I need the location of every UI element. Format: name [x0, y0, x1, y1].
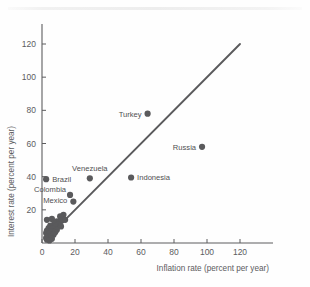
point-label-colombia: Colombia — [34, 185, 67, 194]
data-point — [87, 175, 93, 181]
y-axis-tick-label: 120 — [22, 39, 36, 49]
data-point — [46, 237, 52, 243]
point-labels-layer: TurkeyRussiaVenezuelaIndonesiaBrazilColo… — [34, 110, 197, 205]
reference-line-layer — [52, 44, 240, 233]
forty-five-degree-reference-line — [52, 44, 240, 233]
point-label-indonesia: Indonesia — [137, 173, 171, 182]
data-point — [43, 176, 49, 182]
x-axis-tick-label: 40 — [103, 247, 113, 257]
data-point — [128, 174, 134, 180]
point-label-mexico: Mexico — [43, 196, 67, 205]
point-label-brazil: Brazil — [52, 175, 71, 184]
point-label-venezuela: Venezuela — [72, 164, 108, 173]
point-label-turkey: Turkey — [119, 110, 142, 119]
point-label-russia: Russia — [173, 143, 197, 152]
data-point — [62, 217, 68, 223]
x-axis-tick-label: 20 — [70, 247, 80, 257]
y-axis-tick-label: 100 — [22, 72, 36, 82]
x-axis-tick-label: 120 — [233, 247, 247, 257]
y-axis-tick-label: 40 — [27, 172, 37, 182]
x-axis-tick-label: 80 — [169, 247, 179, 257]
y-axis-title: Interest rate (percent per year) — [7, 126, 16, 237]
x-axis-title: Inflation rate (percent per year) — [157, 264, 270, 273]
y-axis-tick-label: 80 — [27, 105, 37, 115]
data-point — [199, 144, 205, 150]
x-axis-tick-label: 60 — [136, 247, 146, 257]
data-point — [67, 192, 73, 198]
chart-figure: 20406080100120020406080100120 TurkeyRuss… — [0, 0, 310, 287]
data-point — [145, 111, 151, 117]
x-axis-tick-label: 100 — [200, 247, 214, 257]
data-point — [70, 198, 76, 204]
y-axis-tick-label: 60 — [27, 139, 37, 149]
y-axis-tick-label: 20 — [27, 205, 37, 215]
scatter-plot: 20406080100120020406080100120 TurkeyRuss… — [0, 0, 310, 287]
x-axis-tick-label: 0 — [40, 247, 45, 257]
